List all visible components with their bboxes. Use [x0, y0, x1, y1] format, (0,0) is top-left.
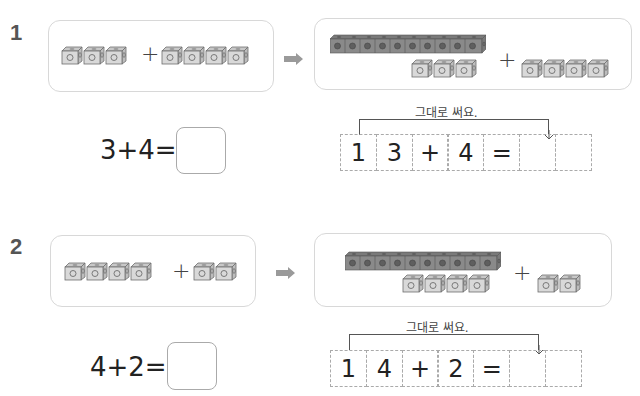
equation-cell: 4: [447, 134, 484, 171]
plus-sign: +: [141, 43, 159, 65]
connecting-cube-icon: [402, 274, 422, 292]
connecting-cube-icon: [183, 46, 203, 64]
equation-cell: 4: [366, 350, 403, 387]
connecting-cube-icon: [433, 59, 453, 77]
ten-cube-rod-icon: [345, 251, 501, 275]
plus-sign: +: [513, 262, 531, 284]
connecting-cube-icon: [86, 262, 106, 280]
connecting-cube-icon: [521, 59, 541, 77]
equation-cell: 2: [437, 350, 474, 387]
cube-group-b: [161, 46, 249, 64]
equation-cell: =: [473, 350, 510, 387]
copy-bracket-1: [359, 119, 549, 135]
cube-group-remaining: [402, 274, 490, 292]
cube-group-a: [61, 46, 127, 64]
connecting-cube-icon: [424, 274, 444, 292]
equation-cell: 3: [376, 134, 413, 171]
problem-2-regroup-panel: +: [314, 233, 612, 307]
equation-cell: 1: [330, 350, 367, 387]
plus-sign: +: [498, 49, 516, 71]
right-arrow-icon: [276, 264, 296, 283]
ten-cube-rod-icon: [330, 34, 486, 58]
answer-cell[interactable]: [509, 350, 546, 387]
connecting-cube-icon: [108, 262, 128, 280]
equation-2: 4+2=: [90, 352, 167, 382]
connecting-cube-icon: [83, 46, 103, 64]
connecting-cube-icon: [537, 274, 557, 292]
equation-cell: 1: [340, 134, 377, 171]
connecting-cube-icon: [193, 262, 213, 280]
equation-cell: =: [483, 134, 520, 171]
problem-1-cubes-panel: +: [48, 20, 274, 92]
connecting-cube-icon: [565, 59, 585, 77]
connecting-cube-icon: [468, 274, 488, 292]
answer-box-2[interactable]: [167, 342, 217, 390]
equation-1: 3+4=: [100, 135, 177, 165]
plus-sign: +: [172, 260, 190, 282]
connecting-cube-icon: [559, 274, 579, 292]
connecting-cube-icon: [130, 262, 150, 280]
connecting-cube-icon: [227, 46, 247, 64]
connecting-cube-icon: [587, 59, 607, 77]
problem-number-1: 1: [10, 20, 22, 46]
connecting-cube-icon: [61, 46, 81, 64]
connecting-cube-icon: [455, 59, 475, 77]
right-arrow-icon: [284, 50, 304, 69]
answer-cell[interactable]: [519, 134, 556, 171]
connecting-cube-icon: [205, 46, 225, 64]
connecting-cube-icon: [215, 262, 235, 280]
answer-box-1[interactable]: [176, 127, 226, 174]
connecting-cube-icon: [411, 59, 431, 77]
hint-label-2: 그대로 써요.: [406, 318, 469, 335]
dashed-answer-row-1: 13+4=: [340, 134, 591, 171]
cube-group-added: [537, 274, 581, 292]
cube-group-remaining: [411, 59, 477, 77]
dashed-answer-row-2: 14+2=: [330, 350, 581, 387]
hint-label-1: 그대로 써요.: [415, 103, 478, 120]
cube-group-a: [64, 262, 152, 280]
problem-1-regroup-panel: +: [314, 18, 632, 90]
connecting-cube-icon: [161, 46, 181, 64]
equation-cell: +: [412, 134, 449, 171]
cube-group-b: [193, 262, 237, 280]
connecting-cube-icon: [64, 262, 84, 280]
problem-number-2: 2: [10, 234, 22, 260]
connecting-cube-icon: [543, 59, 563, 77]
copy-bracket-2: [349, 334, 539, 350]
answer-cell[interactable]: [545, 350, 582, 387]
equation-cell: +: [402, 350, 439, 387]
problem-2-cubes-panel: +: [50, 235, 256, 307]
connecting-cube-icon: [446, 274, 466, 292]
answer-cell[interactable]: [555, 134, 592, 171]
cube-group-added: [521, 59, 609, 77]
connecting-cube-icon: [105, 46, 125, 64]
